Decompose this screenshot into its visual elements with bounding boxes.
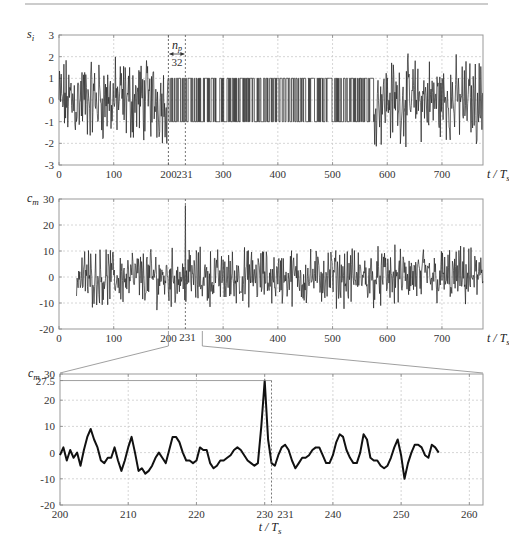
x-tick-label: 260 — [461, 508, 478, 520]
y-tick-label: 3 — [49, 29, 55, 41]
x-tick-label: 700 — [434, 168, 451, 180]
y-tick-label: 20 — [44, 394, 56, 406]
np-value: 32 — [171, 56, 182, 68]
x-tick-label: 600 — [379, 332, 396, 344]
x-tick-label: 100 — [105, 332, 122, 344]
x-tick-label: 400 — [270, 332, 287, 344]
x-tick-label: 400 — [270, 168, 287, 180]
y-tick-label: 10 — [44, 420, 56, 432]
x-tick-label-231: 231 — [176, 168, 193, 180]
x-tick-label: 240 — [325, 508, 342, 520]
y-tick-label: -10 — [39, 297, 54, 309]
x-tick-label: 500 — [324, 168, 341, 180]
x-tick-label: 200 — [160, 168, 177, 180]
y-tick-label: 2 — [49, 51, 55, 63]
x-tick-label-231: 231 — [277, 508, 294, 520]
y-tick-label: 0 — [50, 447, 56, 459]
x-tick-label: 230 — [256, 508, 273, 520]
y-tick-label: -2 — [45, 137, 54, 149]
plot-c-m-zoom: 2002102202302402502603027.520100-10-20cm… — [28, 366, 483, 536]
y-tick-label: 1 — [49, 72, 55, 84]
x-axis-label: t / Ts — [259, 520, 282, 536]
y-tick-label: -1 — [45, 116, 54, 128]
signal-c-m-zoom — [60, 381, 439, 479]
x-tick-label: 220 — [188, 508, 205, 520]
x-tick-label: 500 — [324, 332, 341, 344]
signal-c-m — [77, 206, 484, 311]
x-tick-label: 300 — [215, 168, 232, 180]
y-tick-label: 10 — [43, 245, 55, 257]
figure: 01002003004005006007003210-1-2-3sit / Ts… — [0, 0, 509, 557]
np-label: np — [172, 38, 182, 53]
plot-c-m-full: 01002003004005006007003020100-10-20cmt /… — [27, 191, 509, 347]
y-tick-label: -20 — [39, 323, 54, 335]
x-tick-label: 300 — [215, 332, 232, 344]
y-tick-label: 30 — [43, 193, 55, 205]
x-tick-label: 210 — [120, 508, 137, 520]
y-axis-label: si — [27, 27, 35, 43]
y-tick-label: -20 — [40, 499, 55, 511]
x-tick-label: 600 — [379, 168, 396, 180]
y-tick-label: 0 — [49, 94, 55, 106]
y-tick-label: 20 — [43, 219, 55, 231]
axes-frame — [59, 199, 483, 329]
x-tick-label: 250 — [393, 508, 410, 520]
y-tick-label: -3 — [45, 159, 55, 171]
y-tick-label: -10 — [40, 473, 55, 485]
y-axis-label: cm — [28, 366, 40, 382]
x-axis-label: t / Ts — [487, 167, 509, 183]
y-axis-label: cm — [27, 191, 39, 207]
x-tick-label: 0 — [56, 332, 62, 344]
x-tick-label: 700 — [434, 332, 451, 344]
y-tick-label: 0 — [49, 271, 55, 283]
x-axis-label: t / Ts — [487, 331, 509, 347]
x-tick-label-231: 231 — [179, 331, 196, 343]
x-tick-label: 100 — [105, 168, 122, 180]
plot-s-i: 01002003004005006007003210-1-2-3sit / Ts… — [27, 27, 509, 183]
x-tick-label: 0 — [56, 168, 62, 180]
